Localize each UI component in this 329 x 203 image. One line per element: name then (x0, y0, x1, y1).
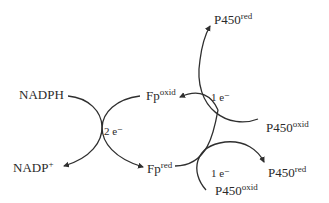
fp-red-to-fp-oxid-arrow (175, 110, 218, 166)
p450-oxid-upper-label: P450oxid (266, 121, 309, 134)
electron-transfer-diagram: NADPH NADP+ Fpoxid Fpred 2 e⁻ P450red P4… (0, 0, 329, 203)
nadph-label: NADPH (19, 88, 64, 101)
p450-oxid-lower-label: P450oxid (215, 184, 258, 197)
p450-upper-reduction-arrow (199, 26, 258, 122)
nadph-to-nadp-arrow (64, 96, 102, 166)
p450-red-upper-label: P450red (214, 13, 252, 26)
two-electron-label: 2 e⁻ (104, 126, 123, 137)
one-electron-upper-label: 1 e⁻ (211, 92, 230, 103)
one-electron-lower-label: 1 e⁻ (211, 168, 230, 179)
p450-red-lower-label: P450red (268, 166, 306, 179)
fp-red-label: Fpred (147, 162, 172, 175)
nadp-plus-label: NADP+ (13, 161, 53, 174)
fp-oxid-label: Fpoxid (146, 89, 176, 102)
